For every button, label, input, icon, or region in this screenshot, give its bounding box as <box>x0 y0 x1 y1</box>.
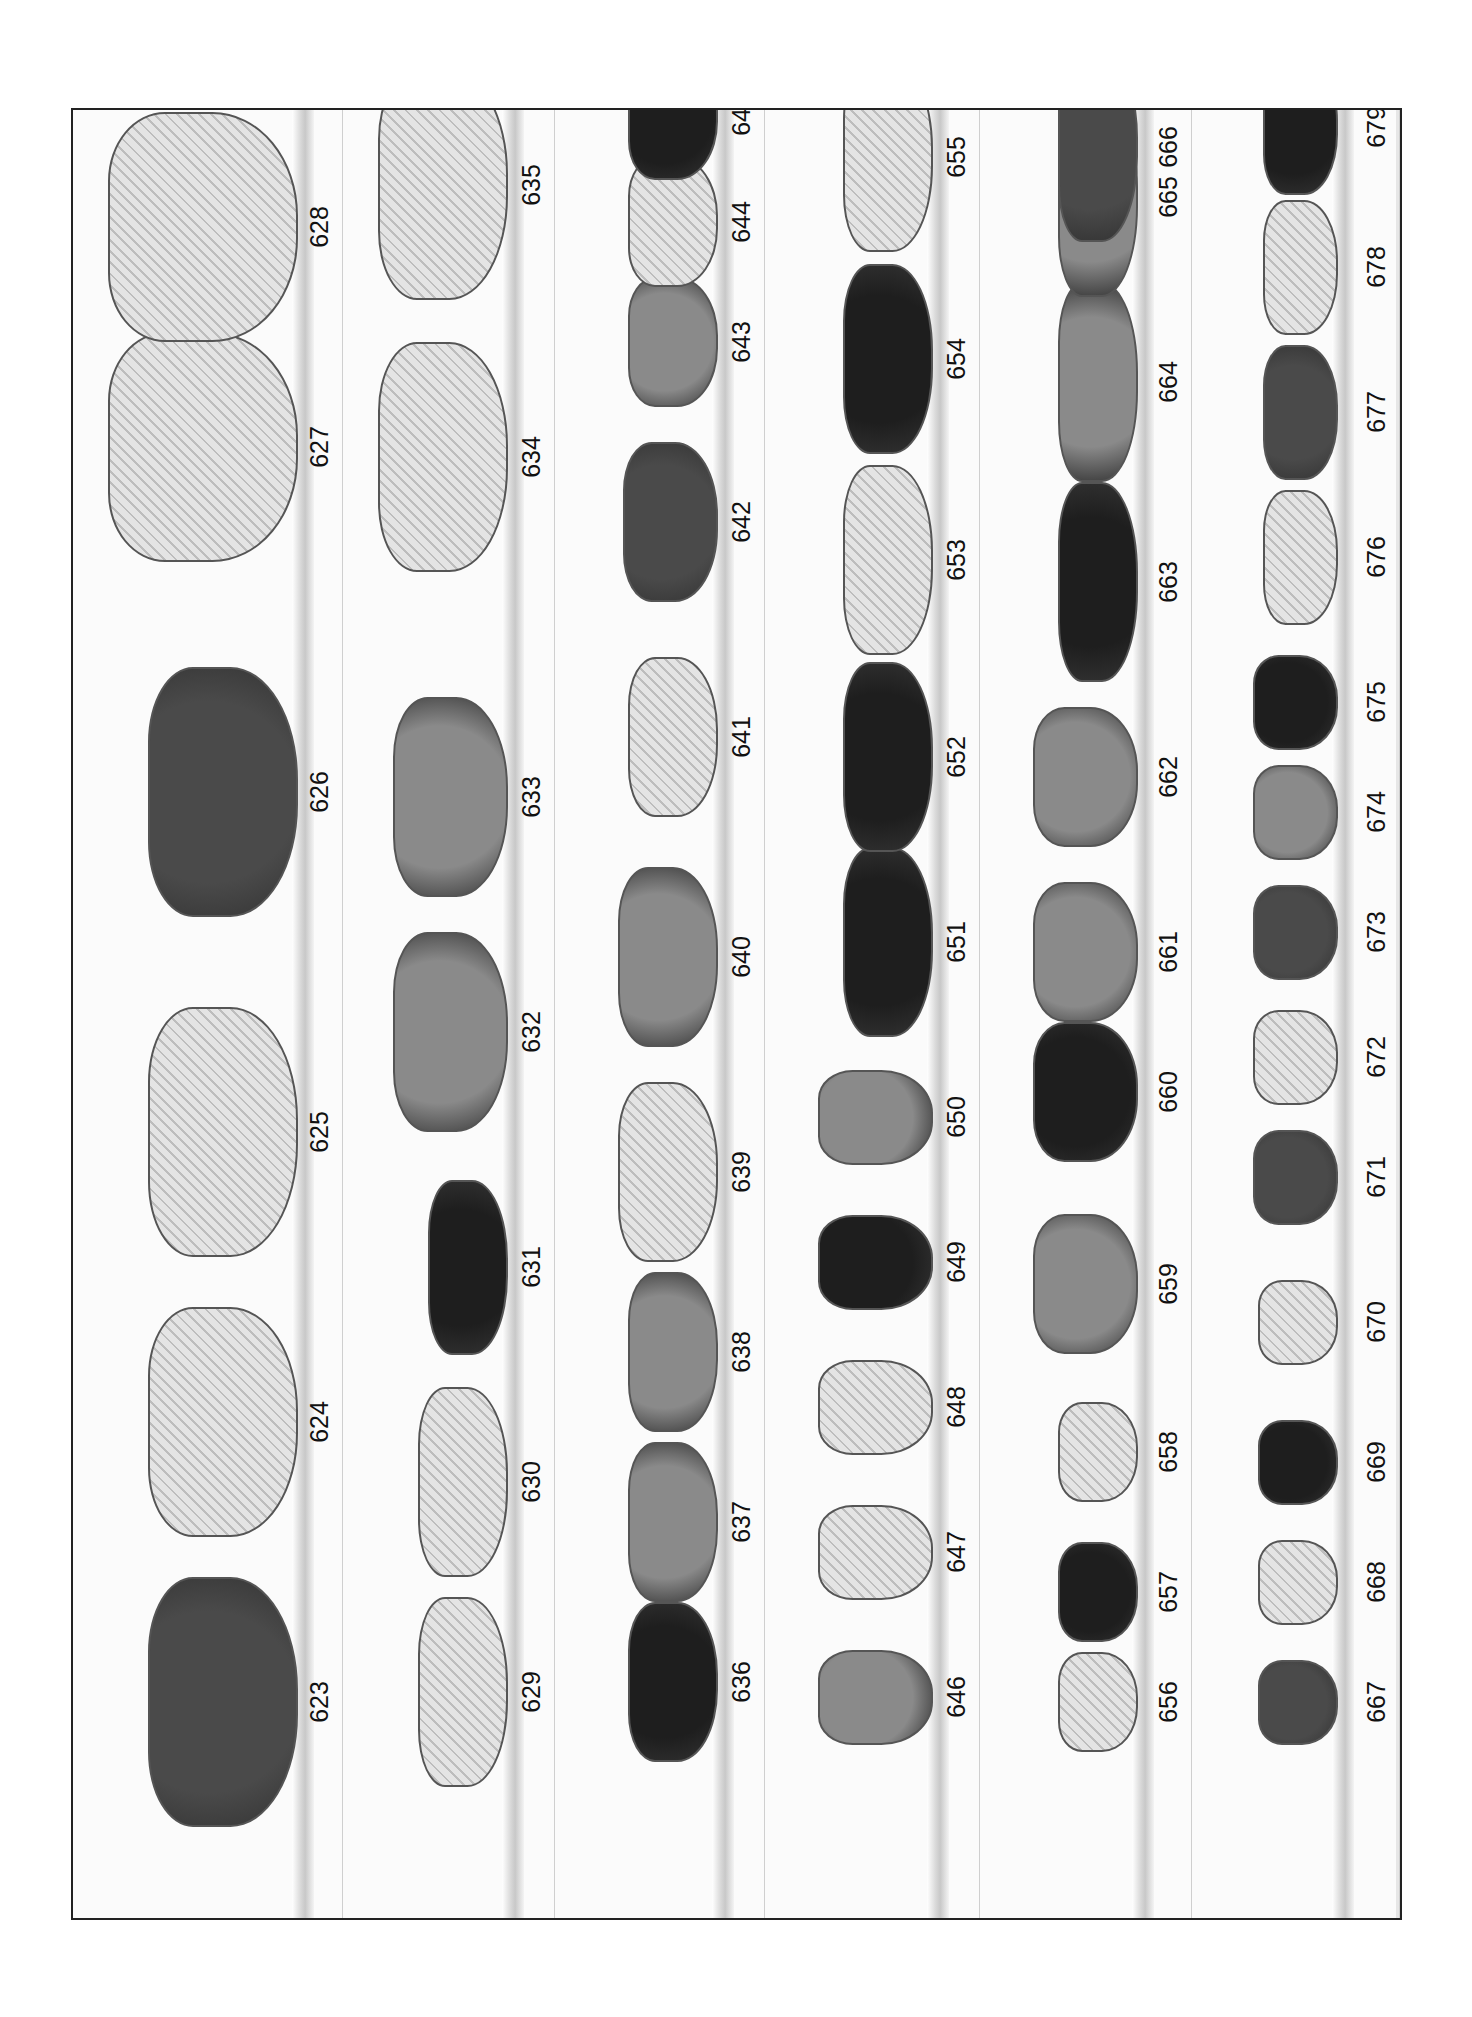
item-number-label: 676 <box>1364 527 1390 587</box>
item-number-label: 661 <box>1156 922 1182 982</box>
glass-item-660 <box>1033 1022 1138 1162</box>
glass-item-671 <box>1253 1130 1338 1225</box>
glass-item-673 <box>1253 885 1338 980</box>
item-number-label: 669 <box>1364 1432 1390 1492</box>
glass-item-635 <box>378 108 508 300</box>
item-number-label: 679 <box>1364 108 1390 157</box>
item-number-label: 647 <box>944 1522 970 1582</box>
item-number-label: 630 <box>519 1452 545 1512</box>
item-number-label: 649 <box>944 1232 970 1292</box>
glass-item-639 <box>618 1082 718 1262</box>
glass-item-631 <box>428 1180 508 1355</box>
item-number-label: 643 <box>729 312 755 372</box>
glass-item-675 <box>1253 655 1338 750</box>
item-number-label: 635 <box>519 155 545 215</box>
shelf-rule-1 <box>342 110 343 1918</box>
glass-item-634 <box>378 342 508 572</box>
glass-item-648 <box>818 1360 933 1455</box>
item-number-label: 675 <box>1364 672 1390 732</box>
glass-item-657 <box>1058 1542 1138 1642</box>
shelf-rule-3 <box>764 110 765 1918</box>
shelf-1 <box>292 110 314 1918</box>
item-number-label: 654 <box>944 329 970 389</box>
glass-item-670 <box>1258 1280 1338 1365</box>
item-number-label: 650 <box>944 1087 970 1147</box>
glass-item-642 <box>623 442 718 602</box>
shelf-rule-5 <box>1191 110 1192 1918</box>
item-number-label: 663 <box>1156 552 1182 612</box>
glass-item-638 <box>628 1272 718 1432</box>
item-number-label: 677 <box>1364 382 1390 442</box>
item-number-label: 659 <box>1156 1254 1182 1314</box>
item-number-label: 648 <box>944 1377 970 1437</box>
glass-item-641 <box>628 657 718 817</box>
item-number-label: 655 <box>944 127 970 187</box>
item-number-label: 666 <box>1156 117 1182 177</box>
glass-item-667 <box>1258 1660 1338 1745</box>
catalog-page-frame: 6236246256266276286296306316326336346356… <box>71 108 1402 1920</box>
glass-item-655 <box>843 108 933 252</box>
glass-item-668 <box>1258 1540 1338 1625</box>
item-number-label: 658 <box>1156 1422 1182 1482</box>
glass-item-630 <box>418 1387 508 1577</box>
glass-item-663 <box>1058 482 1138 682</box>
glass-item-627 <box>108 332 298 562</box>
shelf-rule-6 <box>1399 110 1400 1918</box>
item-number-label: 625 <box>307 1102 333 1162</box>
shelf-rule-4 <box>979 110 980 1918</box>
glass-item-643 <box>628 277 718 407</box>
item-number-label: 674 <box>1364 782 1390 842</box>
item-number-label: 644 <box>729 192 755 252</box>
item-number-label: 638 <box>729 1322 755 1382</box>
item-number-label: 636 <box>729 1652 755 1712</box>
glass-item-669 <box>1258 1420 1338 1505</box>
glass-item-647 <box>818 1505 933 1600</box>
item-number-label: 641 <box>729 707 755 767</box>
glass-item-653 <box>843 465 933 655</box>
item-number-label: 626 <box>307 762 333 822</box>
glass-item-672 <box>1253 1010 1338 1105</box>
item-number-label: 633 <box>519 767 545 827</box>
glass-item-658 <box>1058 1402 1138 1502</box>
item-number-label: 671 <box>1364 1147 1390 1207</box>
glass-item-659 <box>1033 1214 1138 1354</box>
glass-item-652 <box>843 662 933 852</box>
item-number-label: 656 <box>1156 1672 1182 1732</box>
item-number-label: 634 <box>519 427 545 487</box>
shelf-3 <box>712 110 734 1918</box>
glass-item-664 <box>1058 282 1138 482</box>
item-number-label: 660 <box>1156 1062 1182 1122</box>
glass-item-625 <box>148 1007 298 1257</box>
item-number-label: 670 <box>1364 1292 1390 1352</box>
item-number-label: 657 <box>1156 1562 1182 1622</box>
item-number-label: 627 <box>307 417 333 477</box>
item-number-label: 645 <box>729 108 755 145</box>
item-number-label: 642 <box>729 492 755 552</box>
glass-item-633 <box>393 697 508 897</box>
glass-item-645 <box>628 108 718 180</box>
item-number-label: 640 <box>729 927 755 987</box>
glass-item-654 <box>843 264 933 454</box>
glass-item-662 <box>1033 707 1138 847</box>
item-number-label: 637 <box>729 1492 755 1552</box>
glass-item-650 <box>818 1070 933 1165</box>
item-number-label: 632 <box>519 1002 545 1062</box>
glass-item-676 <box>1263 490 1338 625</box>
item-number-label: 623 <box>307 1672 333 1732</box>
item-number-label: 664 <box>1156 352 1182 412</box>
glass-item-649 <box>818 1215 933 1310</box>
item-number-label: 651 <box>944 912 970 972</box>
glass-item-632 <box>393 932 508 1132</box>
item-number-label: 631 <box>519 1237 545 1297</box>
glass-item-651 <box>843 847 933 1037</box>
item-number-label: 628 <box>307 197 333 257</box>
item-number-label: 652 <box>944 727 970 787</box>
item-number-label: 668 <box>1364 1552 1390 1612</box>
glass-item-656 <box>1058 1652 1138 1752</box>
glass-item-624 <box>148 1307 298 1537</box>
glass-item-626 <box>148 667 298 917</box>
glass-item-674 <box>1253 765 1338 860</box>
item-number-label: 653 <box>944 530 970 590</box>
glass-item-628 <box>108 112 298 342</box>
item-number-label: 624 <box>307 1392 333 1452</box>
